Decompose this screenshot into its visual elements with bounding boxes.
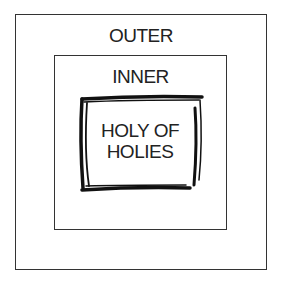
inner-label: INNER bbox=[55, 66, 226, 88]
holy-of-holies-label: HOLY OF HOLIES bbox=[80, 120, 200, 162]
holy-label-line1: HOLY OF bbox=[80, 120, 200, 141]
outer-label: OUTER bbox=[16, 25, 266, 47]
holy-label-line2: HOLIES bbox=[80, 141, 200, 162]
